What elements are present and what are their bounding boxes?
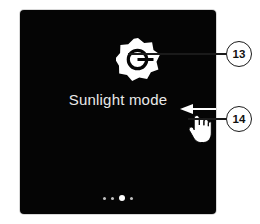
brightness-sunlight-icon[interactable] [116,38,160,82]
callout-marker-14[interactable]: 14 [226,106,252,132]
watch-screen[interactable]: Sunlight mode [20,10,216,214]
page-indicator[interactable] [20,194,216,202]
page-dot-2[interactable] [111,197,114,200]
leader-line-13 [128,53,227,55]
leader-line-14 [188,118,227,120]
callout-marker-13[interactable]: 13 [226,41,252,67]
figure-page: Sunlight mode 13 14 [0,0,260,224]
page-dot-3-active[interactable] [119,195,125,201]
page-dot-4[interactable] [130,197,133,200]
page-dot-1[interactable] [103,197,106,200]
